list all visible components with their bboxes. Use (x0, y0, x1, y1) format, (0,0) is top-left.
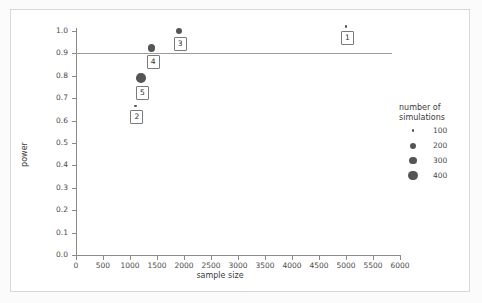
y-tick-label-text: 0.2 (44, 206, 68, 214)
y-tick (72, 76, 76, 77)
y-tick-label: 0.0 (44, 251, 68, 259)
legend-entry-400: 400 (399, 168, 479, 183)
y-tick-label-text: 1.0 (44, 27, 68, 35)
legend-label-300: 300 (433, 153, 447, 168)
y-tick-label-text: 0.0 (44, 251, 68, 259)
reference-line-0.9 (76, 53, 392, 54)
y-tick-label-text: 0.7 (44, 94, 68, 102)
y-tick-label: 0.3 (44, 184, 68, 192)
legend-label-100: 100 (433, 123, 447, 138)
legend-entries: 100200300400 (399, 123, 479, 183)
legend-marker-200 (410, 143, 416, 149)
data-point-label-1[interactable]: 1 (341, 31, 354, 45)
x-tick (130, 256, 131, 260)
y-tick-label: 0.6 (44, 117, 68, 125)
legend-title-line2: simulations (399, 113, 479, 123)
y-tick-label: 0.8 (44, 72, 68, 80)
data-point-label-2[interactable]: 2 (130, 110, 143, 124)
y-tick-label-text: 0.1 (44, 229, 68, 237)
y-tick-label-text: 0.9 (44, 49, 68, 57)
chart-canvas: 0.00.10.20.30.40.50.60.70.80.91.0 050010… (0, 0, 482, 303)
data-point-4[interactable] (148, 44, 156, 52)
legend-entry-100: 100 (399, 123, 479, 138)
y-tick-label: 0.5 (44, 139, 68, 147)
x-tick (265, 256, 266, 260)
x-tick (211, 256, 212, 260)
legend-entry-300: 300 (399, 153, 479, 168)
legend-label-400: 400 (433, 168, 447, 183)
y-tick-label: 0.4 (44, 161, 68, 169)
legend: number of simulations 100200300400 (399, 103, 479, 183)
x-tick (238, 256, 239, 260)
y-tick (72, 98, 76, 99)
y-tick-label-text: 0.6 (44, 117, 68, 125)
y-tick (72, 165, 76, 166)
legend-title: number of simulations (399, 103, 479, 123)
data-point-label-4[interactable]: 4 (147, 55, 160, 69)
legend-marker-100 (412, 129, 415, 132)
y-tick-label: 0.9 (44, 49, 68, 57)
legend-title-line1: number of (399, 103, 479, 113)
y-tick-label: 1.0 (44, 27, 68, 35)
scatter-plot: 0.00.10.20.30.40.50.60.70.80.91.0 050010… (0, 0, 482, 303)
legend-marker-300 (409, 157, 417, 165)
y-tick (72, 121, 76, 122)
data-point-2[interactable] (134, 105, 137, 108)
y-tick-label: 0.7 (44, 94, 68, 102)
y-axis-label: power (20, 125, 29, 185)
y-tick (72, 53, 76, 54)
y-tick-label: 0.2 (44, 206, 68, 214)
y-tick (72, 233, 76, 234)
data-point-label-5[interactable]: 5 (136, 86, 149, 100)
x-tick-label: 6000 (382, 261, 418, 270)
y-tick (72, 188, 76, 189)
y-tick-label-text: 0.5 (44, 139, 68, 147)
legend-entry-200: 200 (399, 138, 479, 153)
y-tick-label: 0.1 (44, 229, 68, 237)
data-point-label-3[interactable]: 3 (174, 37, 187, 51)
x-tick (76, 256, 77, 260)
y-axis-line (76, 28, 77, 256)
x-tick (292, 256, 293, 260)
y-tick (72, 143, 76, 144)
x-tick (373, 256, 374, 260)
y-tick-label-text: 0.4 (44, 161, 68, 169)
legend-label-200: 200 (433, 138, 447, 153)
x-tick (319, 256, 320, 260)
x-tick (157, 256, 158, 260)
x-tick (346, 256, 347, 260)
x-tick (400, 256, 401, 260)
x-tick (184, 256, 185, 260)
y-tick (72, 210, 76, 211)
x-axis-label: sample size (160, 271, 280, 280)
y-tick-label-text: 0.8 (44, 72, 68, 80)
data-point-5[interactable] (136, 73, 146, 83)
x-tick (103, 256, 104, 260)
data-point-3[interactable] (176, 28, 182, 34)
y-tick (72, 31, 76, 32)
data-point-1[interactable] (345, 25, 348, 28)
y-tick-label-text: 0.3 (44, 184, 68, 192)
legend-marker-400 (408, 171, 418, 181)
